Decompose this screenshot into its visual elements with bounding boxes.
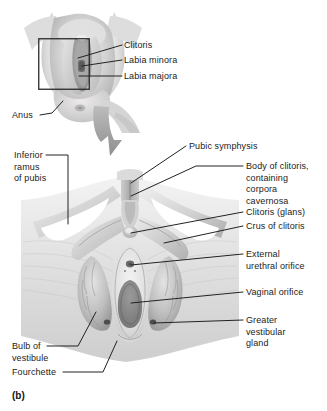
inset-region-box <box>38 38 90 90</box>
label-vaginal-orifice: Vaginal orifice <box>246 287 303 299</box>
label-crus-of-clitoris: Crus of clitoris <box>246 221 305 233</box>
label-anus: Anus <box>12 110 33 122</box>
label-labia-majora: Labia majora <box>124 71 177 83</box>
panel-letter: (b) <box>12 390 25 401</box>
label-clitoris-glans: Clitoris (glans) <box>246 207 305 219</box>
anatomy-figure: Clitoris Labia minora Labia majora Anus … <box>0 0 327 411</box>
label-inferior-ramus-of-pubis: Inferior ramus of pubis <box>14 150 46 185</box>
label-pubic-symphysis: Pubic symphysis <box>189 141 258 153</box>
label-body-of-clitoris: Body of clitoris, containing corpora cav… <box>246 161 309 207</box>
label-bulb-of-vestibule: Bulb of vestibule <box>12 341 48 364</box>
label-fourchette: Fourchette <box>12 367 56 379</box>
label-external-urethral-orifice: External urethral orifice <box>246 249 305 272</box>
bottom-illustration <box>21 168 239 366</box>
label-greater-vestibular-gland: Greater vestibular gland <box>246 315 286 350</box>
magnify-arrow-icon <box>88 104 130 160</box>
label-clitoris: Clitoris <box>124 40 152 52</box>
label-labia-minora: Labia minora <box>124 55 177 67</box>
